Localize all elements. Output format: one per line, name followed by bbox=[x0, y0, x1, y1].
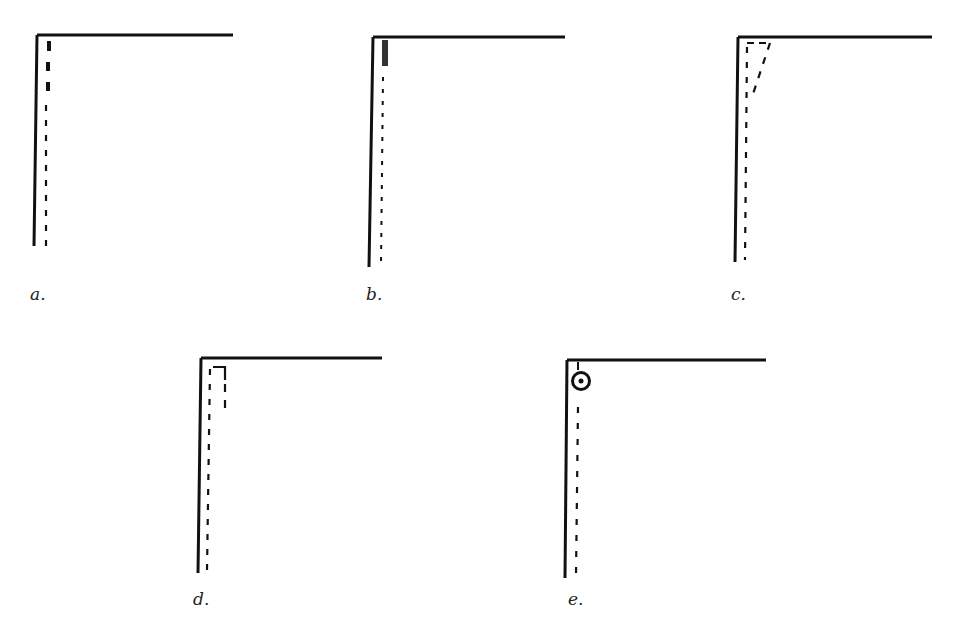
panel-e-graphic bbox=[0, 0, 955, 624]
panel-e: e. bbox=[0, 0, 955, 624]
dashed-trace bbox=[573, 362, 590, 576]
axes bbox=[565, 360, 766, 578]
panel-label: e. bbox=[568, 589, 583, 609]
